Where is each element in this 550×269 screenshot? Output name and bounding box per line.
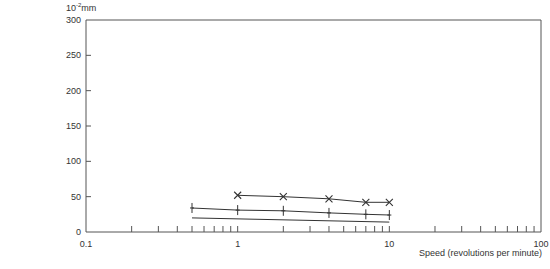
y-tick-label: 150 [66,121,81,131]
series-group [190,192,393,222]
plus-marker-icon [327,208,331,218]
y-tick-label: 300 [66,15,81,25]
plus-marker-icon [387,210,391,220]
x-tick-label: 10 [384,239,394,249]
plus-marker-icon [190,203,194,213]
axes [86,20,541,232]
y-tick-label: 200 [66,86,81,96]
plus-marker-icon [236,205,240,215]
x-tick-label: 1 [235,239,240,249]
plus-marker-icon [364,209,368,219]
plus-marker-icon [281,206,285,216]
plus-series [190,203,391,220]
line-chart: 0501001502002503000.1110100 [0,0,550,269]
y-tick-label: 100 [66,156,81,166]
ticks: 0501001502002503000.1110100 [66,15,549,249]
y-tick-label: 0 [76,227,81,237]
cross-series [234,192,393,206]
y-tick-label: 50 [71,192,81,202]
line-series [192,218,389,222]
y-tick-label: 250 [66,50,81,60]
x-axis-label: Speed (revolutions per minute) [419,248,542,258]
x-tick-label: 0.1 [80,239,93,249]
series-line [192,208,389,215]
series-line [192,218,389,222]
